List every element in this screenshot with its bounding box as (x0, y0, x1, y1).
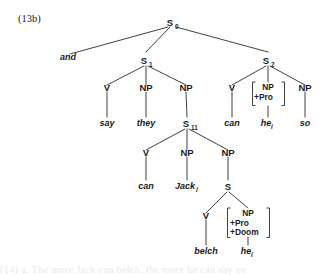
example-number: (13b) (18, 13, 41, 25)
node-s1-np2: NP (179, 82, 193, 93)
node-s0-label: S (167, 17, 173, 28)
node-s11-label: S (183, 118, 189, 129)
node-s0: S 0 (167, 17, 179, 30)
feature-matrix-slow-row-0: NP (242, 208, 254, 218)
stem-np-s11 (186, 92, 187, 117)
branches-s11-preterminals (146, 157, 228, 180)
branch-s11-v (146, 129, 185, 150)
node-s1-subscript: 1 (149, 61, 153, 68)
terminal-he-right-label: he (261, 118, 272, 128)
terminal-jack: Jack i (175, 181, 198, 193)
feature-matrix-slow-row-2: +Doom (230, 227, 259, 237)
node-s1-np1: NP (139, 82, 153, 93)
terminal-they: they (137, 118, 157, 128)
terminal-he-right: he i (261, 118, 273, 130)
node-s11: S 11 (183, 118, 198, 131)
node-s11-subscript: 11 (191, 124, 198, 131)
figure-container: (13b) (0, 0, 331, 275)
terminal-can-mid: can (138, 181, 154, 191)
bracket-right-slow (267, 208, 270, 238)
terminal-he-right-subscript: i (271, 123, 273, 130)
node-s11-np2: NP (221, 147, 235, 158)
node-s11-np1: NP (180, 147, 194, 158)
bracket-right-s2 (282, 82, 285, 106)
node-s1-label: S (141, 55, 147, 66)
terminal-he-low-subscript: i (251, 251, 253, 258)
branches-s0 (70, 27, 268, 54)
node-s2-v: V (229, 82, 236, 93)
syntax-tree-svg: (13b) (0, 0, 331, 275)
node-s2: S 2 (263, 55, 275, 68)
node-s1: S 1 (141, 55, 153, 68)
branches-preterminals (107, 92, 305, 117)
terminal-so: so (300, 118, 311, 128)
feature-matrix-slow-row-1: +Pro (230, 218, 249, 228)
terminal-say: say (99, 118, 115, 128)
feature-matrix-s2-row-0: NP (262, 82, 274, 92)
terminal-and: and (60, 52, 77, 62)
node-s-low-v: V (203, 210, 210, 221)
branch-s0-s1 (146, 27, 170, 52)
terminal-jack-label: Jack (175, 181, 196, 191)
branch-s2-v (232, 66, 266, 85)
feature-matrix-s2-row-1: +Pro (254, 92, 273, 102)
terminal-can-right: can (224, 118, 240, 128)
node-s0-subscript: 0 (175, 23, 179, 30)
node-s1-v: V (104, 82, 111, 93)
node-s11-v: V (143, 147, 150, 158)
branch-slow-np-matrix (229, 192, 248, 208)
node-s2-label: S (263, 55, 269, 66)
terminal-belch: belch (194, 246, 218, 256)
terminal-he-low-label: he (241, 246, 252, 256)
branch-s0-s2 (176, 27, 268, 52)
terminal-jack-subscript: i (196, 186, 198, 193)
node-s2-subscript: 2 (271, 61, 275, 68)
terminal-he-low: he i (241, 246, 253, 258)
node-s2-np2: NP (298, 82, 312, 93)
next-line-ghost-text: (14) a. The more Jack can belch, the mor… (0, 264, 331, 275)
branch-s0-and (70, 27, 168, 54)
node-s-low: S (225, 181, 231, 192)
